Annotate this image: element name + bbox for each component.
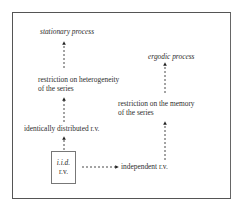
node-memory-line1: restriction on the memory [118,99,195,108]
node-heterogeneity-line1: restriction on heterogeneity [38,75,119,84]
node-iid-line1: i.i.d. [52,158,75,167]
node-memory-line2: of the series [118,108,154,117]
node-ergodic-process: ergodic process [148,52,194,61]
node-stationary-process: stationary process [40,27,94,36]
node-iid-line2: r.v. [52,167,75,176]
node-identically-distributed: identically distributed r.v. [24,124,99,133]
node-independent: independent r.v. [121,162,168,171]
node-heterogeneity-line2: of the series [38,84,74,93]
node-iid-box: i.i.d. r.v. [51,151,76,184]
